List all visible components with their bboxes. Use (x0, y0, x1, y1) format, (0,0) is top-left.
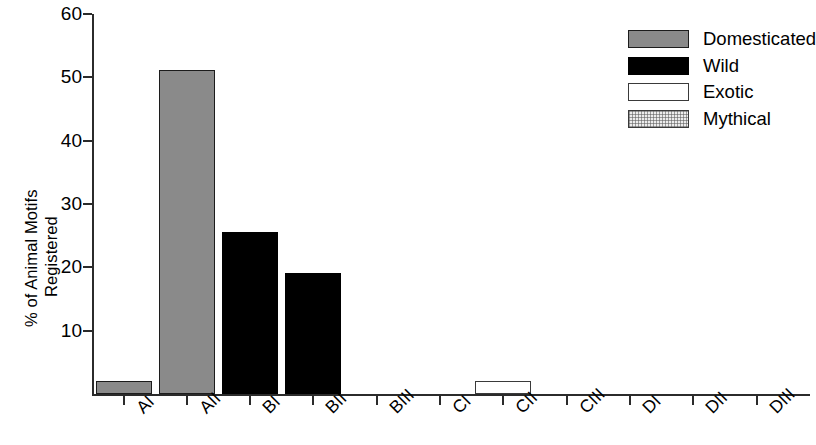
x-axis-tick-label-biii: BIII (386, 404, 399, 417)
y-axis-tick-label: 30 (42, 194, 82, 213)
bar-bi (222, 232, 278, 394)
y-axis-tick-label: 40 (42, 131, 82, 150)
legend-swatch-wild (628, 57, 689, 75)
y-axis-tick (83, 76, 92, 78)
bar-bii (285, 273, 341, 394)
bar-aii (159, 70, 215, 394)
x-axis-tick-label-cii: CII (512, 404, 525, 417)
legend-swatch-exotic (628, 83, 689, 101)
legend-label-domesticated: Domesticated (703, 27, 816, 51)
x-axis-tick-label-ai: AI (133, 404, 146, 417)
y-axis-tick (83, 203, 92, 205)
x-axis-tick-label-diii: DIII (766, 404, 779, 417)
legend-label-exotic: Exotic (703, 80, 753, 104)
x-axis-tick-labels: AIAIIBIBIIBIIICICIICIIIDIDIIDIII (92, 396, 810, 445)
y-axis-line (92, 14, 94, 396)
y-axis-tick (83, 13, 92, 15)
x-axis-tick-label-ci: CI (449, 404, 462, 417)
y-axis-tick-label: 50 (42, 67, 82, 86)
legend-item-mythical: Mythical (628, 107, 810, 132)
y-axis-tick-label: 60 (42, 4, 82, 23)
chart-legend: DomesticatedWildExoticMythical (628, 27, 810, 135)
y-axis-tick-label: 10 (42, 321, 82, 340)
legend-item-domesticated: Domesticated (628, 27, 810, 52)
x-axis-tick-label-aii: AII (196, 404, 209, 417)
y-axis-tick (83, 266, 92, 268)
y-axis-tick-label: 20 (42, 257, 82, 276)
x-axis-tick-label-di: DI (639, 404, 652, 417)
legend-label-mythical: Mythical (703, 107, 771, 131)
x-axis-tick-label-bii: BII (322, 404, 335, 417)
legend-swatch-domesticated (628, 30, 689, 48)
legend-label-wild: Wild (703, 54, 739, 78)
y-axis-tick-labels: 102030405060 (38, 14, 82, 396)
y-axis-tick (83, 330, 92, 332)
legend-item-exotic: Exotic (628, 80, 810, 105)
x-axis-tick-label-dii: DII (702, 404, 715, 417)
legend-item-wild: Wild (628, 54, 810, 79)
y-axis-tick (83, 140, 92, 142)
x-axis-tick-label-ciii: CIII (576, 404, 589, 417)
x-axis-tick-label-bi: BI (259, 404, 272, 417)
legend-swatch-mythical (628, 110, 689, 128)
